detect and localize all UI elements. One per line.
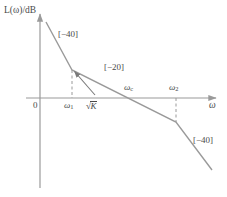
sqrt-k-pointer-arrow bbox=[75, 72, 96, 96]
y-axis-label: L(ω)/dB bbox=[4, 6, 36, 16]
slope-label-minus40-high: [−40] bbox=[193, 136, 213, 145]
plot-canvas bbox=[0, 0, 227, 197]
sqrt-k-label: √K bbox=[86, 101, 97, 111]
omega2-tick-label: ω2 bbox=[169, 83, 179, 92]
slope-label-minus20-mid: [−20] bbox=[104, 63, 124, 72]
omega-c-tick-label: ωc bbox=[124, 83, 133, 92]
x-axis-label: ω bbox=[209, 101, 216, 111]
bode-plot-figure: L(ω)/dB ω 0 [−40] [−20] [−40] ω1 √K ωc ω… bbox=[0, 0, 227, 197]
slope-label-minus40-low: [−40] bbox=[58, 30, 78, 39]
origin-label: 0 bbox=[33, 101, 38, 110]
magnitude-asymptote-curve bbox=[46, 22, 212, 170]
omega1-tick-label: ω1 bbox=[64, 101, 74, 110]
